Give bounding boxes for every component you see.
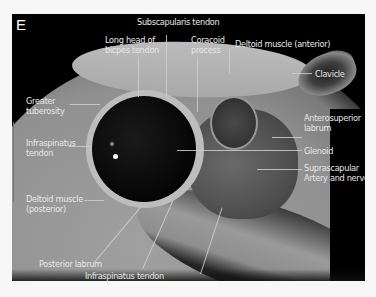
label-infraspinatus-tendon-bottom: Infraspinatus tendon (85, 271, 164, 281)
leader-line (272, 137, 302, 138)
panel-letter: E (16, 16, 26, 33)
label-greater-tuberosity: Greatertuberosity (26, 96, 64, 116)
bright-spot (110, 142, 114, 146)
leader-line (166, 35, 167, 97)
leader-line (177, 150, 302, 151)
mri-image: E 3cm Subscapularis tendon Long head ofb… (12, 14, 365, 281)
leader-line (138, 57, 139, 97)
scale-bar-label: 3cm (14, 208, 23, 213)
leader-line (197, 57, 198, 112)
leader-line (257, 169, 302, 170)
label-coracoid-process: Coracoidprocess (191, 35, 225, 55)
leader-line (229, 49, 230, 73)
label-anterosuperior-labrum: Anterosuperiorlabrum (304, 113, 361, 133)
label-long-head-biceps: Long head ofbicpes tendon (105, 35, 159, 55)
label-infraspinatus-tendon-left: Infraspinatustendon (26, 138, 76, 158)
leader-line (84, 200, 104, 201)
label-posterior-labrum: Posterior labrum (39, 259, 102, 269)
leader-line (70, 104, 100, 105)
bright-spot (113, 154, 118, 159)
label-suprascapular: SuprascapularArtery and nerve (304, 163, 365, 183)
humeral-head (92, 96, 196, 202)
scale-bar (13, 122, 14, 202)
label-subscapularis-tendon: Subscapularis tendon (137, 17, 219, 27)
coracoid-shape (210, 96, 258, 150)
label-glenoid: Glenoid (304, 146, 333, 156)
label-deltoid-posterior: Deltoid muscle(posterior) (26, 194, 83, 214)
background-mask (330, 109, 365, 281)
label-clavicle: Clavicle (315, 69, 345, 79)
bottom-shade (12, 269, 365, 281)
leader-line (292, 73, 312, 74)
label-deltoid-anterior: Deltoid muscle (anterior) (235, 39, 330, 49)
